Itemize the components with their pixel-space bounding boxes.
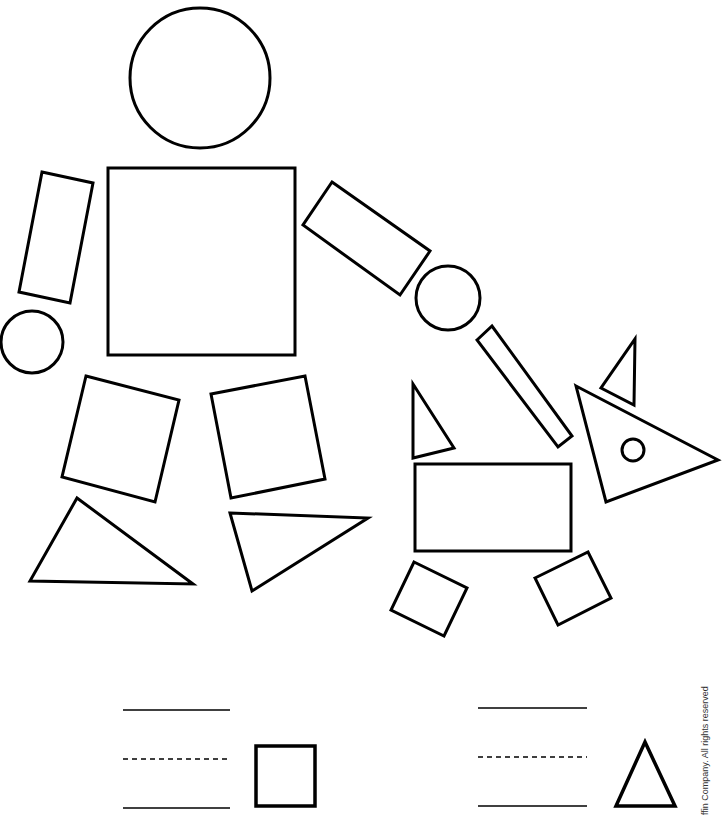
dog-head-triangle-shape: [576, 386, 718, 502]
person-body-square-shape: [108, 168, 295, 355]
dog-body-rectangle-shape: [415, 464, 571, 551]
person-left-leg-square-shape: [62, 376, 179, 502]
square-icon: [256, 746, 315, 806]
person-left-hand-circle-shape: [1, 311, 63, 373]
person-right-leg-square-shape: [211, 376, 325, 498]
person-right-arm-rectangle-shape: [303, 182, 430, 295]
dog-ear-triangle-shape: [601, 339, 635, 405]
dog-front-leg-square-shape: [535, 552, 611, 625]
person-head-circle-shape: [130, 8, 270, 148]
dog-eye-circle-shape: [622, 439, 644, 461]
worksheet-canvas: [0, 0, 723, 819]
person-left-arm-rectangle-shape: [19, 172, 93, 303]
person-right-foot-triangle-shape: [230, 513, 368, 591]
person-right-hand-circle-shape: [416, 266, 480, 330]
dog-back-leg-square-shape: [391, 562, 467, 636]
person-left-foot-triangle-shape: [30, 498, 193, 584]
copyright-notice: ffin Company. All rights reserved: [700, 686, 710, 815]
triangle-icon: [616, 742, 675, 806]
dog-tail-triangle-shape: [413, 384, 454, 458]
leash-rectangle-shape: [477, 326, 572, 447]
